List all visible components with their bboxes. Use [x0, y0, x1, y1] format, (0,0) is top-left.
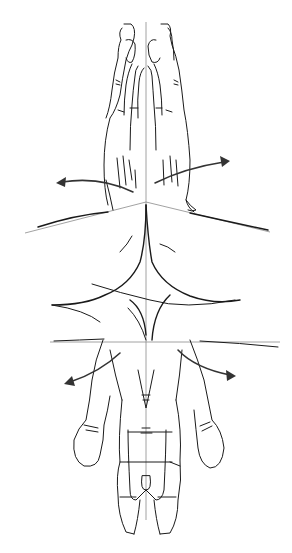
- bottom-hand: [74, 340, 224, 534]
- illustration-svg: [0, 0, 292, 553]
- hand-rotation-illustration: hands rotating about a central axis (pra…: [0, 0, 292, 553]
- lower-right-rotation-arrow: [178, 350, 236, 381]
- upper-left-rotation-arrow: [56, 177, 133, 192]
- upper-right-rotation-arrow: [155, 156, 230, 183]
- top-hands: [104, 24, 196, 212]
- lower-plane-guide: [50, 339, 280, 347]
